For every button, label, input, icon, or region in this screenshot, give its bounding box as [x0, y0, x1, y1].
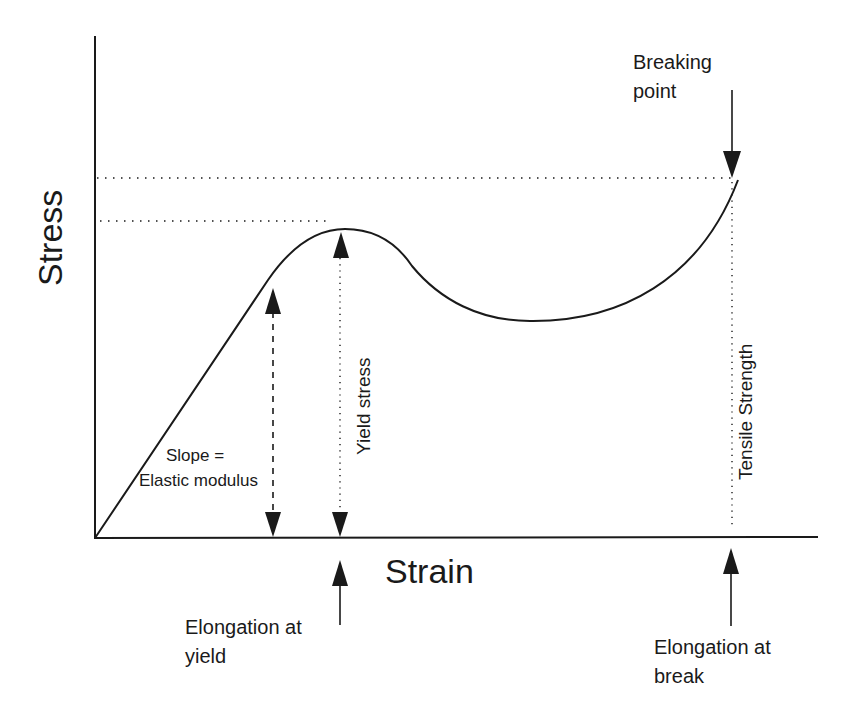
stress-strain-diagram: Stress Strain Breaking point Slope = Ela…: [0, 0, 857, 721]
elongation-break-label-line2: break: [654, 665, 705, 687]
elongation-break-label-line1: Elongation at: [654, 636, 771, 658]
arrowhead-down-icon: [265, 512, 281, 537]
slope-label-line2: Elastic modulus: [139, 471, 258, 490]
breaking-point-label-line1: Breaking: [633, 51, 712, 73]
x-axis: [94, 537, 818, 538]
elongation-yield-label-line2: yield: [185, 645, 226, 667]
x-axis-label: Strain: [385, 552, 474, 590]
y-axis-label: Stress: [31, 190, 69, 286]
arrowhead-up-icon: [723, 548, 739, 574]
yield-stress-label: Yield stress: [353, 358, 374, 456]
arrowhead-down-icon: [723, 151, 741, 178]
breaking-point-label-line2: point: [633, 80, 677, 102]
arrowhead-up-icon: [332, 560, 348, 586]
slope-label-line1: Slope =: [166, 446, 224, 465]
elongation-yield-label-line1: Elongation at: [185, 616, 302, 638]
arrowhead-down-icon: [332, 512, 348, 537]
arrowhead-up-icon: [265, 288, 281, 314]
arrowhead-up-icon: [333, 232, 349, 258]
tensile-strength-label: Tensile Strength: [735, 344, 756, 480]
